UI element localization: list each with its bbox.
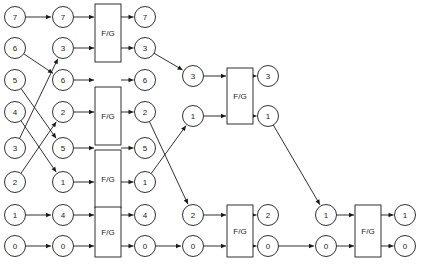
edge-line: [21, 121, 56, 172]
network-node: 2: [135, 102, 156, 123]
edge: [21, 89, 56, 139]
network-node: 3: [183, 66, 204, 87]
edge: [121, 213, 134, 218]
edge: [204, 244, 227, 249]
node-label: 4: [143, 211, 148, 220]
network-node: 0: [395, 236, 416, 257]
node-label: 5: [13, 76, 18, 85]
node-label: 0: [61, 242, 66, 251]
node-label: 2: [61, 108, 66, 117]
fg-box: F/G: [95, 207, 121, 257]
network-node: 3: [53, 38, 74, 59]
arrow-head-icon: [129, 180, 134, 185]
fg-box-label: F/G: [101, 175, 114, 184]
fg-box-label: F/G: [361, 227, 374, 236]
fg-box-label: F/G: [233, 227, 246, 236]
network-node: 5: [5, 70, 26, 91]
edge: [121, 46, 134, 51]
network-node: 4: [135, 205, 156, 226]
arrow-head-icon: [129, 146, 134, 151]
node-label: 0: [13, 242, 18, 251]
edge: [74, 146, 95, 151]
edges-layer: [20, 15, 394, 249]
node-label: 3: [143, 44, 148, 53]
node-label: 1: [143, 178, 148, 187]
arrow-head-icon: [46, 244, 51, 249]
fg-box-label: F/G: [233, 92, 246, 101]
edge: [121, 110, 134, 115]
edge: [74, 244, 95, 249]
arrow-head-icon: [51, 167, 56, 172]
node-label: 0: [143, 242, 148, 251]
arrow-head-icon: [129, 213, 134, 218]
arrow-head-icon: [181, 126, 186, 131]
network-node: 1: [5, 205, 26, 226]
node-label: 0: [191, 242, 196, 251]
edge-line: [149, 122, 187, 205]
edge: [24, 54, 53, 74]
arrow-head-icon: [309, 244, 314, 249]
edge: [121, 78, 134, 83]
network-node: 7: [5, 7, 26, 28]
network-node: 0: [258, 236, 279, 257]
node-label: 6: [13, 44, 18, 53]
network-node: 4: [5, 102, 26, 123]
arrow-head-icon: [389, 244, 394, 249]
network-node: 5: [135, 138, 156, 159]
edge: [273, 125, 320, 205]
edge: [204, 74, 227, 79]
arrow-head-icon: [129, 78, 134, 83]
network-canvas: F/GF/GF/GF/GF/GF/GF/G 765432107362514073…: [0, 0, 424, 265]
arrow-head-icon: [46, 15, 51, 20]
edge: [74, 46, 95, 51]
edge: [156, 244, 182, 249]
edge: [26, 15, 52, 20]
arrow-head-icon: [221, 74, 226, 79]
edge: [381, 244, 394, 249]
node-label: 2: [143, 108, 148, 117]
arrow-head-icon: [46, 213, 51, 218]
edge: [74, 180, 95, 185]
arrow-head-icon: [221, 244, 226, 249]
fg-box: F/G: [95, 150, 121, 208]
arrow-head-icon: [176, 244, 181, 249]
node-label: 7: [61, 13, 66, 22]
fg-box: F/G: [95, 87, 121, 145]
arrow-head-icon: [89, 180, 94, 185]
node-label: 0: [266, 242, 271, 251]
arrow-head-icon: [349, 244, 354, 249]
node-label: 0: [403, 242, 408, 251]
arrow-head-icon: [129, 244, 134, 249]
edge: [121, 15, 134, 20]
arrow-head-icon: [89, 46, 94, 51]
node-label: 1: [266, 112, 271, 121]
arrow-head-icon: [89, 213, 94, 218]
node-label: 1: [13, 211, 18, 220]
network-node: 1: [258, 106, 279, 127]
edge-line: [20, 59, 58, 139]
edge: [74, 78, 95, 83]
network-node: 0: [53, 236, 74, 257]
butterfly-network-diagram: F/GF/GF/GF/GF/GF/GF/G 765432107362514073…: [0, 0, 424, 265]
edge-line: [151, 126, 186, 174]
fg-box: F/G: [95, 4, 121, 62]
network-node: 2: [183, 205, 204, 226]
arrow-head-icon: [129, 110, 134, 115]
edge-line: [21, 122, 56, 173]
edge: [151, 126, 186, 174]
edge-line: [273, 125, 320, 205]
edge: [204, 213, 227, 218]
network-node: 6: [5, 38, 26, 59]
node-label: 1: [191, 112, 196, 121]
network-node: 7: [135, 7, 156, 28]
arrow-head-icon: [89, 78, 94, 83]
arrow-head-icon: [129, 15, 134, 20]
network-node: 1: [316, 205, 337, 226]
node-label: 4: [13, 108, 18, 117]
arrow-head-icon: [349, 213, 354, 218]
node-label: 3: [13, 144, 18, 153]
edge-line: [24, 54, 53, 74]
arrow-head-icon: [51, 122, 56, 127]
network-node: 4: [53, 205, 74, 226]
fg-box: F/G: [227, 205, 253, 257]
